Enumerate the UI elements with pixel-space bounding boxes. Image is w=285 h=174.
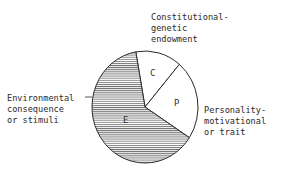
label-e-line-3: or stimuli xyxy=(7,115,59,125)
label-c-line-2: genetic xyxy=(151,23,187,33)
pie-slices xyxy=(92,51,198,163)
label-constitutional: Constitutional- genetic endowment xyxy=(151,12,229,44)
slice-letter-p: P xyxy=(174,98,180,108)
label-p-line-3: or trait xyxy=(204,127,245,137)
slice-letter-e: E xyxy=(123,115,128,125)
label-environmental: Environmental consequence or stimuli xyxy=(7,93,74,125)
label-e-line-1: Environmental xyxy=(7,93,74,103)
label-c-line-3: endowment xyxy=(151,34,198,44)
pie-chart: C P E Constitutional- genetic endowment … xyxy=(0,0,285,174)
label-personality: Personality- motivational or trait xyxy=(204,105,266,137)
label-p-line-2: motivational xyxy=(204,116,266,126)
label-p-line-1: Personality- xyxy=(204,105,266,115)
label-c-line-1: Constitutional- xyxy=(151,12,229,22)
label-e-line-2: consequence xyxy=(7,104,64,114)
slice-letter-c: C xyxy=(150,68,155,78)
